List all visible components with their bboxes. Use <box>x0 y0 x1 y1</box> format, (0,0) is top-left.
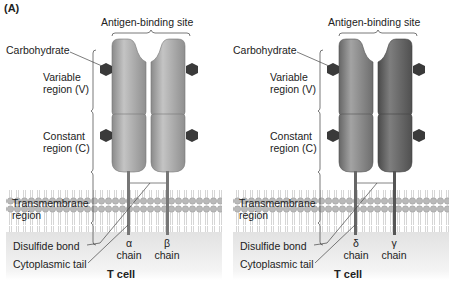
gamma-symbol: γ <box>379 237 409 249</box>
alpha-chain-label: α chain <box>114 237 144 261</box>
carbohydrate-icon <box>327 129 339 142</box>
transmembrane-region-label-1: Transmembrane <box>239 197 316 209</box>
carbohydrate-label: Carbohydrate <box>6 44 70 56</box>
t-cell-label: T cell <box>107 268 135 280</box>
beta-chain-label: β chain <box>152 237 182 261</box>
chain-word: chain <box>114 249 144 261</box>
variable-region-label-1: Variable <box>270 71 308 83</box>
transmembrane-region-label-1: Transmembrane <box>12 197 89 209</box>
chain-word: chain <box>341 249 371 261</box>
transmembrane-region-label-2: region <box>239 209 268 221</box>
variable-region-label-2: region (V) <box>270 83 316 95</box>
chain-word: chain <box>379 249 409 261</box>
carbohydrate-icon <box>186 129 198 142</box>
alpha-symbol: α <box>114 237 144 249</box>
variable-region-label-1: Variable <box>43 71 81 83</box>
antigen-binding-site-label: Antigen-binding site <box>328 16 420 28</box>
carbohydrate-icon <box>186 63 198 76</box>
transmembrane-region-label-2: region <box>12 209 41 221</box>
disulfide-bond-label: Disulfide bond <box>13 240 80 252</box>
constant-region-label-2: region (C) <box>270 142 317 154</box>
tcr-alpha-beta-panel: Antigen-binding site Carbohydrate Variab… <box>0 0 226 293</box>
constant-region-label-2: region (C) <box>43 142 90 154</box>
carbohydrate-icon <box>327 63 339 76</box>
carbohydrate-icon <box>413 129 425 142</box>
constant-region-label-1: Constant <box>270 130 312 142</box>
carbohydrate-icon <box>413 63 425 76</box>
cytoplasmic-tail-label: Cytoplasmic tail <box>240 258 314 270</box>
cytoplasmic-tail-label: Cytoplasmic tail <box>13 258 87 270</box>
carbohydrate-label: Carbohydrate <box>233 44 297 56</box>
gamma-chain-label: γ chain <box>379 237 409 261</box>
carbohydrate-icon <box>100 129 112 142</box>
constant-region-label-1: Constant <box>43 130 85 142</box>
delta-symbol: δ <box>341 237 371 249</box>
variable-region-label-2: region (V) <box>43 83 89 95</box>
antigen-binding-site-label: Antigen-binding site <box>101 16 193 28</box>
disulfide-bond-label: Disulfide bond <box>240 240 307 252</box>
carbohydrate-icon <box>100 63 112 76</box>
beta-symbol: β <box>152 237 182 249</box>
chain-word: chain <box>152 249 182 261</box>
t-cell-label: T cell <box>334 268 362 280</box>
tcr-delta-gamma-panel: Antigen-binding site Carbohydrate Variab… <box>227 0 453 293</box>
delta-chain-label: δ chain <box>341 237 371 261</box>
